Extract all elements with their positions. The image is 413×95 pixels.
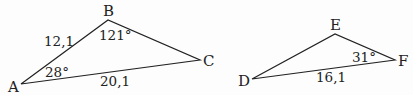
vertex-label-b: B <box>103 2 114 20</box>
vertex-label-d: D <box>238 72 250 90</box>
triangle-diagram: A B C 12,1 20,1 28° 121° D E F 16,1 31° <box>0 0 413 95</box>
side-df-length: 16,1 <box>316 69 346 85</box>
vertex-label-f: F <box>398 52 408 70</box>
vertex-label-c: C <box>203 52 214 70</box>
angle-f-measure: 31° <box>352 49 376 65</box>
angle-a-measure: 28° <box>45 64 69 80</box>
vertex-label-e: E <box>330 16 341 34</box>
angle-b-measure: 121° <box>99 27 132 43</box>
diagram-canvas: A B C 12,1 20,1 28° 121° D E F 16,1 31° <box>0 0 413 95</box>
side-ab-length: 12,1 <box>44 33 74 49</box>
vertex-label-a: A <box>7 78 19 95</box>
side-ac-length: 20,1 <box>100 73 130 89</box>
